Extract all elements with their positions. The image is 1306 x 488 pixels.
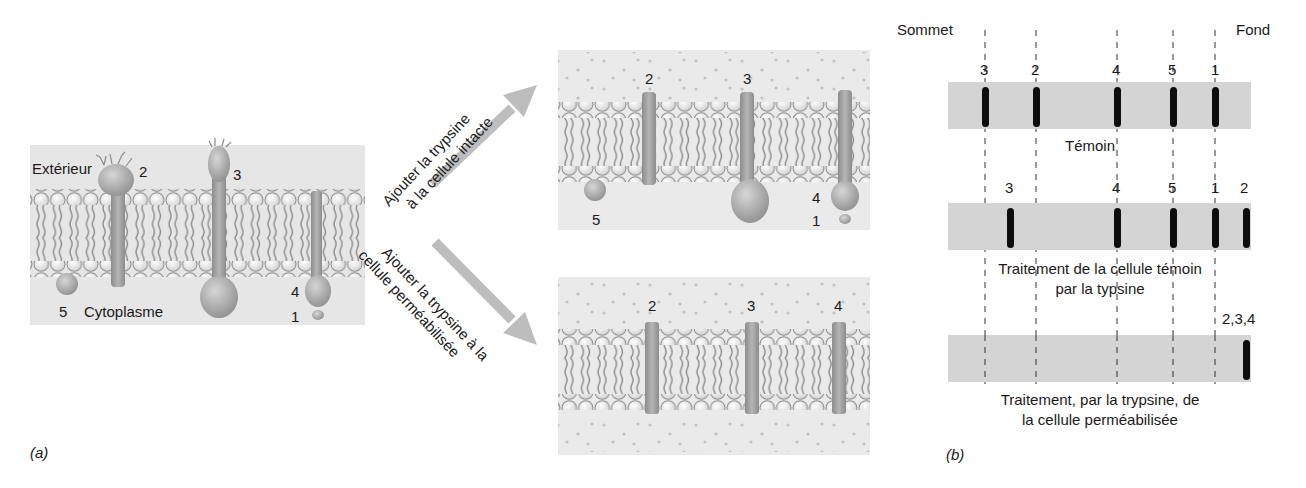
gel2-band-label: 1 (1211, 180, 1219, 195)
protein-4-label: 4 (291, 284, 299, 299)
intact-cell-membrane (558, 50, 870, 230)
gel2-band-label: 4 (1112, 180, 1120, 195)
protein-3-head (208, 146, 230, 182)
perm-protein-4-label: 4 (834, 298, 842, 313)
protein-5-label: 5 (59, 304, 67, 319)
gel-lane-permeabilized-trypsin (948, 335, 1251, 382)
protein-3-rod (745, 322, 759, 414)
protein-3-cyto-domain (200, 276, 238, 318)
gel-lane-intact-trypsin (948, 203, 1251, 250)
gel2-band-label: 5 (1168, 180, 1176, 195)
band-4 (1114, 87, 1121, 127)
gel2-band-label: 3 (1005, 180, 1013, 195)
protein-1 (839, 214, 851, 224)
band-5 (1170, 208, 1177, 248)
protein-2-label: 2 (139, 164, 147, 179)
bottom-label: Fond (1236, 22, 1270, 37)
protein-2-head (98, 164, 134, 196)
gel-lane-control (948, 82, 1251, 129)
protein-2-rod (645, 322, 659, 414)
intact-protein-4-label: 4 (812, 190, 820, 205)
band-1 (1212, 87, 1219, 127)
gel2-band-label: 2 (1240, 180, 1248, 195)
exterior-label: Extérieur (32, 161, 92, 176)
protein-1-label: 1 (291, 309, 299, 324)
protein-2-rod (642, 92, 656, 185)
intact-protein-1-label: 1 (812, 213, 820, 228)
gel3-band-label: 2,3,4 (1222, 311, 1255, 326)
protein-5 (56, 273, 78, 295)
band-1 (1212, 208, 1219, 248)
top-label: Sommet (897, 22, 953, 37)
protein-4-cyto-domain (305, 275, 331, 307)
band-4 (1114, 208, 1121, 248)
cytoplasm-label: Cytoplasme (84, 304, 163, 319)
intact-protein-5-label: 5 (592, 212, 600, 227)
protein-4-rod (832, 322, 846, 414)
gel1-band-label: 3 (980, 62, 988, 77)
gel1-band-label: 1 (1211, 62, 1219, 77)
band-2 (1033, 87, 1040, 127)
panel-b-gels (948, 30, 1251, 385)
perm-protein-3-label: 3 (747, 298, 755, 313)
panel-b-label: (b) (946, 447, 964, 462)
band-3 (982, 87, 989, 127)
gel3-caption: Traitement, par la trypsine, de la cellu… (940, 390, 1260, 430)
gel1-band-label: 5 (1168, 62, 1176, 77)
band-5 (1170, 87, 1177, 127)
protein-4-cyto-domain (831, 181, 859, 211)
intact-protein-2-label: 2 (645, 71, 653, 86)
protein-3-cyto-domain (731, 179, 769, 223)
band-2 (1243, 208, 1250, 248)
gel2-caption: Traitement de la cellule témoin par la t… (940, 259, 1260, 299)
permeabilized-cell-membrane (558, 277, 870, 455)
panel-a-label: (a) (30, 445, 48, 460)
protein-3-rod (740, 92, 754, 192)
gel1-caption: Témoin (1065, 138, 1115, 153)
band-2-3-4 (1243, 340, 1250, 380)
protein-3-label: 3 (233, 167, 241, 182)
protein-1 (312, 310, 324, 320)
protein-5 (584, 179, 606, 201)
protein-4-rod (838, 90, 852, 195)
gel1-band-label: 2 (1031, 62, 1039, 77)
perm-protein-2-label: 2 (648, 298, 656, 313)
intact-protein-3-label: 3 (743, 71, 751, 86)
band-3 (1007, 208, 1014, 248)
gel1-band-label: 4 (1112, 62, 1120, 77)
